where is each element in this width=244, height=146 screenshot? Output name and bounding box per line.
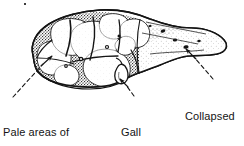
liver-body [32,10,232,91]
label-collapsed-stroma: Collapsed stroma [185,83,235,146]
label-gall-bladder: Gall bladder [121,99,158,146]
ink-speck [24,3,26,5]
label-collapsed-stroma-line1: Collapsed [185,110,235,124]
label-pale-areas: Pale areas of regenerating liver tissue [3,99,69,146]
leader-collapsed-stroma [194,57,213,79]
label-pale-areas-line1: Pale areas of [3,126,69,140]
label-gall-bladder-line1: Gall [121,126,158,140]
cirrhotic-liver-figure: Pale areas of regenerating liver tissue … [0,0,244,146]
leader-pale-areas [13,64,43,97]
